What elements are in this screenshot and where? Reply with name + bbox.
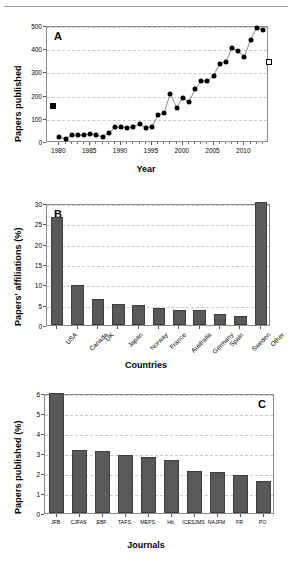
panel-c-journals: Papers published (%)C0123456JFBCJFASEBFT…	[0, 382, 292, 570]
panel-a-data-point	[137, 122, 142, 127]
panel-c-bar	[187, 471, 202, 513]
panel-b-bar	[132, 305, 145, 325]
panel-b-ytickmark	[43, 224, 46, 225]
panel-b-xtickmark	[77, 326, 78, 329]
panel-c-ytickmark	[41, 514, 44, 515]
panel-b-category-label: Australia	[190, 331, 213, 354]
panel-a-xtickminor	[95, 142, 96, 144]
panel-c-category-label: EBF	[96, 519, 106, 525]
panel-a-xtickminor	[169, 142, 170, 144]
panel-a-data-point	[88, 131, 93, 136]
panel-a-ytickmark	[43, 142, 46, 143]
panel-b-bar	[112, 304, 125, 325]
panel-c-xtickmark	[171, 514, 172, 517]
panel-a-xtick-2010: 2010	[236, 147, 250, 154]
panel-a-xtick-2005: 2005	[205, 147, 219, 154]
panel-a-xtickminor	[114, 142, 115, 144]
panel-b-xtickmark	[199, 326, 200, 329]
panel-c-ytickmark	[41, 414, 44, 415]
panel-a-ytickmark	[43, 26, 46, 27]
panel-a-xlabel: Year	[0, 164, 292, 174]
panel-a-data-point	[242, 54, 247, 59]
panel-a-ytickmark	[43, 72, 46, 73]
panel-a-data-point	[143, 125, 148, 130]
panel-a-data-point	[254, 25, 259, 30]
panel-a-xtickminor	[225, 142, 226, 144]
panel-a-data-point	[199, 78, 204, 83]
panel-a-data-point	[94, 133, 99, 138]
panel-a-xtickminor	[71, 142, 72, 144]
panel-b-ytick-0: 0	[24, 323, 42, 330]
panel-b-bar	[92, 299, 105, 325]
panel-b-ytick-30: 30	[24, 201, 42, 208]
panel-a-xtickminor	[176, 142, 177, 144]
panel-c-bar	[233, 475, 248, 513]
panel-c-ytickmark	[41, 394, 44, 395]
panel-c-category-label: PO	[259, 519, 267, 525]
panel-c-gridline	[45, 395, 273, 396]
panel-b-bar	[234, 316, 247, 325]
panel-a-xtick-1995: 1995	[144, 147, 158, 154]
panel-b-xtickmark	[56, 326, 57, 329]
panel-b-ytickmark	[43, 285, 46, 286]
panel-b-category-label: Japan	[126, 331, 143, 348]
panel-c-xtickmark	[148, 514, 149, 517]
panel-a-ytickmark	[43, 119, 46, 120]
panel-a-data-point	[106, 131, 111, 136]
panel-a-data-point	[205, 78, 210, 83]
panel-b-gridline	[47, 246, 269, 247]
panel-b-xtickmark	[97, 326, 98, 329]
panel-c-ytick-0: 0	[22, 511, 40, 518]
panel-b-ytickmark	[43, 204, 46, 205]
panel-a-data-point	[186, 100, 191, 105]
panel-a-data-point	[230, 45, 235, 50]
panel-a-xtickminor	[206, 142, 207, 144]
panel-a-xtickminor	[132, 142, 133, 144]
panel-a-xtick-1990: 1990	[113, 147, 127, 154]
panel-a-xtickminor	[237, 142, 238, 144]
panel-b-country-affiliations: Papers' affiliations (%)B051015202530USA…	[0, 192, 292, 380]
panel-a-xtickminor	[83, 142, 84, 144]
panel-a-data-point	[149, 124, 154, 129]
panel-a-xtickminor	[256, 142, 257, 144]
panel-a-data-point	[193, 87, 198, 92]
panel-c-bar	[210, 472, 225, 513]
panel-c-bar	[49, 393, 64, 513]
panel-c-ytick-5: 5	[22, 411, 40, 418]
panel-a-data-point	[119, 124, 124, 129]
panel-b-ytickmark	[43, 265, 46, 266]
panel-a-xtickminor	[77, 142, 78, 144]
panel-a-xtickminor	[262, 142, 263, 144]
panel-c-ytick-2: 2	[22, 471, 40, 478]
panel-c-ytick-4: 4	[22, 431, 40, 438]
panel-b-category-label: Norway	[148, 331, 169, 352]
panel-a-ytick-500: 500	[22, 23, 42, 30]
panel-c-bar	[256, 481, 271, 513]
panel-c-xtickmark	[240, 514, 241, 517]
panel-c-xtickmark	[217, 514, 218, 517]
panel-c-ytick-6: 6	[22, 391, 40, 398]
panel-a-ytick-300: 300	[22, 69, 42, 76]
panel-a-xtickminor	[219, 142, 220, 144]
panel-b-ytick-20: 20	[24, 241, 42, 248]
header-rule	[4, 6, 288, 7]
panel-c-xlabel: Journals	[0, 540, 292, 550]
panel-a-xtickminor	[194, 142, 195, 144]
panel-c-ytickmark	[41, 494, 44, 495]
panel-a-data-point	[125, 126, 130, 131]
panel-b-bar	[255, 202, 268, 325]
panel-a-data-point	[180, 95, 185, 100]
panel-a-ytickmark	[43, 96, 46, 97]
panel-a-connecting-line	[47, 27, 269, 143]
panel-a-data-point	[162, 110, 167, 115]
panel-b-bar	[153, 308, 166, 325]
panel-a-data-point	[82, 133, 87, 138]
panel-a-xtickminor	[102, 142, 103, 144]
panel-a-data-point	[260, 28, 265, 33]
panel-b-xtickmark	[260, 326, 261, 329]
panel-b-gridline	[47, 225, 269, 226]
panel-a-data-point	[112, 125, 117, 130]
panel-a-xtickminor	[157, 142, 158, 144]
panel-b-bar	[71, 285, 84, 325]
panel-c-letter: C	[258, 398, 266, 410]
